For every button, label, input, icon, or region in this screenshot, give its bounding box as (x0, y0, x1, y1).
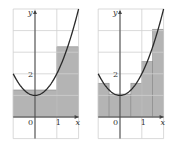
origin-label: 0 (28, 118, 33, 127)
riemann-rectangle (35, 90, 57, 117)
riemann-rectangle (109, 94, 120, 117)
x-tick-label: 1 (56, 118, 61, 127)
riemann-rectangle (120, 94, 131, 117)
y-tick-label: 2 (28, 70, 33, 79)
y-tick-label: 2 (113, 70, 118, 79)
y-axis-arrow-icon (33, 10, 37, 14)
y-axis-label: y (27, 8, 33, 17)
right-panel-midpoint-n6: yx012 (98, 8, 165, 139)
origin-label: 0 (113, 118, 118, 127)
figure: yx012 yx012 (0, 0, 171, 149)
y-axis-arrow-icon (118, 10, 122, 14)
left-panel-midpoint-n3: yx012 (13, 8, 80, 139)
y-axis-label: y (112, 8, 118, 17)
riemann-rectangle (57, 47, 79, 117)
x-axis-label: x (161, 118, 166, 127)
x-axis-label: x (76, 118, 81, 127)
x-tick-label: 1 (141, 118, 146, 127)
riemann-rectangle (13, 90, 35, 117)
